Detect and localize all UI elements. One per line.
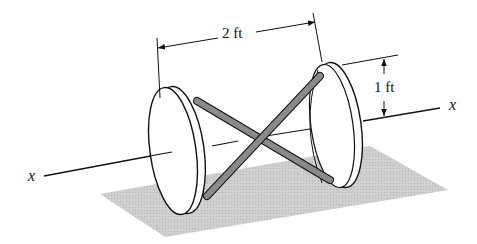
x-axis-right bbox=[363, 108, 440, 121]
diagram-canvas: 2 ft 1 ft x x bbox=[0, 0, 477, 244]
length-dimension-label: 2 ft bbox=[222, 26, 242, 41]
x-axis-right-label: x bbox=[449, 97, 456, 113]
radius-dimension-label: 1 ft bbox=[374, 80, 394, 95]
x-axis-middle bbox=[212, 141, 238, 146]
x-axis-left-label: x bbox=[28, 168, 35, 184]
